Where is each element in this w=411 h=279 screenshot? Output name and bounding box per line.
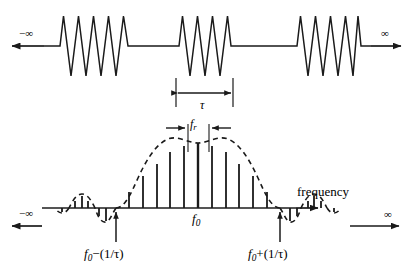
burst-train-trace: [44, 16, 371, 76]
signal-spectrum-figure: −∞ ∞ τ fr f0 frequency −∞ ∞ f0−(1/τ) f0+…: [0, 0, 411, 279]
bottom-left-infinity-label: −∞: [19, 208, 33, 219]
figure-vector-layer: [0, 0, 411, 279]
null-right-label: f0+(1/τ): [248, 247, 288, 263]
f0-label-sub: 0: [196, 218, 201, 228]
f0-label: f0: [192, 212, 200, 228]
top-right-infinity-label: ∞: [381, 28, 389, 39]
null-right-rest: +(1/τ): [256, 246, 287, 261]
frequency-axis-label: frequency: [297, 185, 349, 198]
spectral-lines: [62, 143, 334, 221]
null-left-label: f0−(1/τ): [84, 247, 124, 263]
bottom-right-infinity-label: ∞: [384, 209, 392, 220]
tau-label: τ: [200, 99, 204, 111]
null-left-rest: −(1/τ): [92, 246, 123, 261]
tau-dimension: [176, 78, 233, 107]
top-left-infinity-label: −∞: [19, 28, 33, 39]
fr-label-sub: r: [193, 122, 196, 132]
fr-label: fr: [190, 118, 197, 132]
